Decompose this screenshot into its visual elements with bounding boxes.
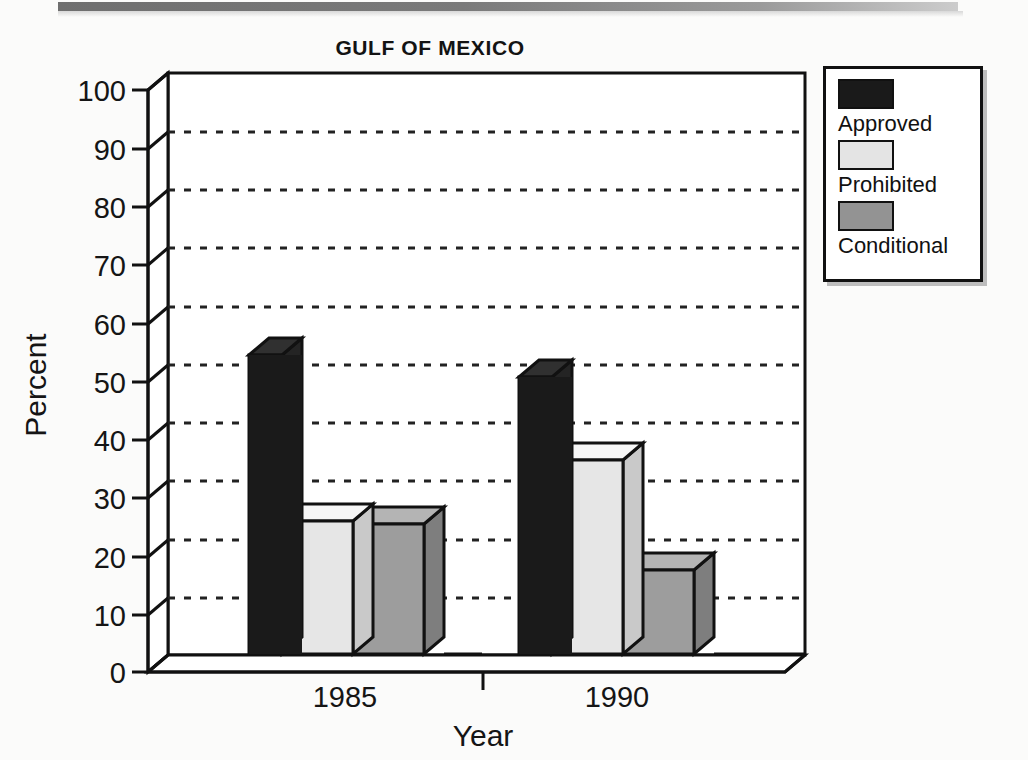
y-tick-0: 0: [110, 657, 126, 689]
y-tick-40: 40: [94, 425, 126, 457]
y-tick-100: 100: [78, 75, 126, 107]
x-tick-1985: 1985: [313, 681, 378, 713]
legend-label-approved: Approved: [838, 110, 980, 138]
y-axis-line: [132, 90, 148, 672]
legend-item-prohibited[interactable]: Prohibited: [826, 140, 980, 199]
x-tick-1990: 1990: [585, 681, 650, 713]
y-tick-10: 10: [94, 600, 126, 632]
y-tick-60: 60: [94, 309, 126, 341]
y-tick-labels: 100 90 80 70 60 50 40 30 20 10 0: [78, 75, 126, 689]
legend-label-conditional: Conditional: [838, 232, 980, 260]
legend-item-approved[interactable]: Approved: [826, 79, 980, 138]
y-axis-title: Percent: [19, 333, 52, 437]
chart-legend: Approved Prohibited Conditional: [823, 66, 983, 282]
y-tick-90: 90: [94, 134, 126, 166]
legend-swatch-prohibited: [838, 140, 894, 170]
plot-floor: [148, 655, 805, 672]
legend-swatch-approved: [838, 79, 894, 109]
y-tick-80: 80: [94, 192, 126, 224]
bar-1990-approved-fill: [519, 377, 572, 654]
bar-1985-approved-fill: [249, 355, 302, 654]
chart-figure: GULF OF MEXICO: [0, 0, 1028, 760]
x-tick-labels: 1985 1990: [313, 681, 650, 713]
legend-item-conditional[interactable]: Conditional: [826, 201, 980, 260]
y-tick-30: 30: [94, 483, 126, 515]
y-tick-70: 70: [94, 250, 126, 282]
legend-label-prohibited: Prohibited: [838, 171, 980, 199]
legend-swatch-conditional: [838, 201, 894, 231]
y-tick-20: 20: [94, 542, 126, 574]
x-axis-title: Year: [453, 719, 514, 752]
y-tick-50: 50: [94, 367, 126, 399]
